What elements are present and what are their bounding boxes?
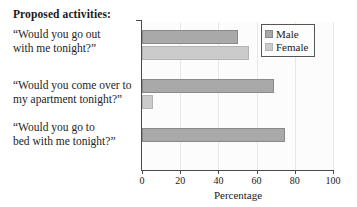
- x-axis-label: Percentage: [214, 189, 262, 201]
- category-label-1-line-2: with me tonight?”: [13, 42, 101, 56]
- male-swatch-icon: [265, 30, 273, 38]
- gridline-20: [180, 22, 181, 170]
- page-title: Proposed activities:: [13, 8, 111, 20]
- y-axis-line: [141, 20, 142, 170]
- category-label-3-line-1: “Would you go to: [13, 121, 116, 135]
- bar-female-group-2: [142, 95, 153, 109]
- x-tick-40: [218, 170, 219, 174]
- category-label-2-line-2: my apartment tonight?”: [13, 93, 132, 107]
- bar-female-group-1: [142, 46, 249, 60]
- gridline-60: [257, 22, 258, 170]
- category-label-3: “Would you go to bed with me tonight?”: [13, 121, 116, 148]
- category-label-3-line-2: bed with me tonight?”: [13, 135, 116, 149]
- x-tick-100: [333, 170, 334, 174]
- x-tick-80: [295, 170, 296, 174]
- category-label-1-line-1: “Would you go out: [13, 28, 101, 42]
- x-axis-line: [141, 170, 334, 171]
- legend-item-male: Male: [265, 27, 308, 40]
- gridline-40: [218, 22, 219, 170]
- legend-item-female: Female: [265, 40, 308, 53]
- bar-chart-figure: Proposed activities: “Would you go out w…: [0, 0, 357, 207]
- x-tick-0: [142, 170, 143, 174]
- category-label-column: Proposed activities: “Would you go out w…: [0, 0, 139, 207]
- category-label-2: “Would you come over to my apartment ton…: [13, 79, 132, 106]
- x-tick-label-20: 20: [175, 175, 185, 186]
- bar-male-group-3: [142, 128, 285, 142]
- x-tick-label-0: 0: [140, 175, 145, 186]
- gridline-100: [333, 22, 334, 170]
- category-label-1: “Would you go out with me tonight?”: [13, 28, 101, 55]
- x-tick-label-40: 40: [213, 175, 223, 186]
- category-label-2-line-1: “Would you come over to: [13, 79, 132, 93]
- x-tick-label-80: 80: [290, 175, 300, 186]
- legend-label-male: Male: [276, 28, 299, 40]
- female-swatch-icon: [265, 43, 273, 51]
- x-tick-20: [180, 170, 181, 174]
- bar-male-group-2: [142, 79, 274, 93]
- bar-male-group-1: [142, 30, 238, 44]
- legend: Male Female: [261, 24, 315, 57]
- x-tick-60: [257, 170, 258, 174]
- x-tick-label-60: 60: [252, 175, 262, 186]
- legend-label-female: Female: [276, 41, 308, 53]
- x-tick-label-100: 100: [326, 175, 341, 186]
